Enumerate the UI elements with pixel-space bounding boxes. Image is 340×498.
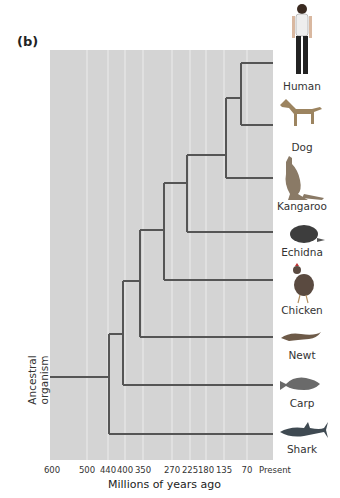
ancestral-label-line2: organism [38, 355, 50, 404]
taxon-label-newt: Newt [267, 349, 337, 361]
kangaroo-icon [286, 156, 325, 200]
human-icon [292, 4, 312, 74]
x-tick-70: 70 [242, 465, 253, 475]
dog-icon [280, 99, 322, 126]
x-axis-label: Millions of years ago [108, 478, 221, 491]
carp-icon [280, 378, 320, 390]
ancestral-organism-label: Ancestral organism [26, 355, 50, 404]
x-tick-350: 350 [135, 465, 151, 475]
taxon-label-echidna: Echidna [267, 246, 337, 258]
x-tick-present: Present [259, 465, 291, 475]
x-tick-400: 400 [117, 465, 133, 475]
taxon-label-human: Human [267, 80, 337, 92]
x-tick-135: 135 [216, 465, 232, 475]
taxon-label-carp: Carp [267, 397, 337, 409]
chicken-icon [293, 263, 314, 303]
plot-area [50, 50, 273, 460]
x-tick-270: 270 [164, 465, 180, 475]
ancestral-label-line1: Ancestral [26, 355, 38, 404]
taxon-label-shark: Shark [267, 443, 337, 455]
x-tick-180: 180 [198, 465, 214, 475]
taxon-label-kangaroo: Kangaroo [267, 200, 337, 212]
taxon-label-chicken: Chicken [267, 304, 337, 316]
x-tick-600: 600 [44, 465, 60, 475]
shark-icon [280, 422, 328, 438]
x-tick-440: 440 [100, 465, 116, 475]
echidna-icon [290, 225, 325, 243]
x-tick-225: 225 [182, 465, 198, 475]
x-tick-500: 500 [79, 465, 95, 475]
newt-icon [281, 332, 321, 341]
taxon-label-dog: Dog [267, 141, 337, 153]
